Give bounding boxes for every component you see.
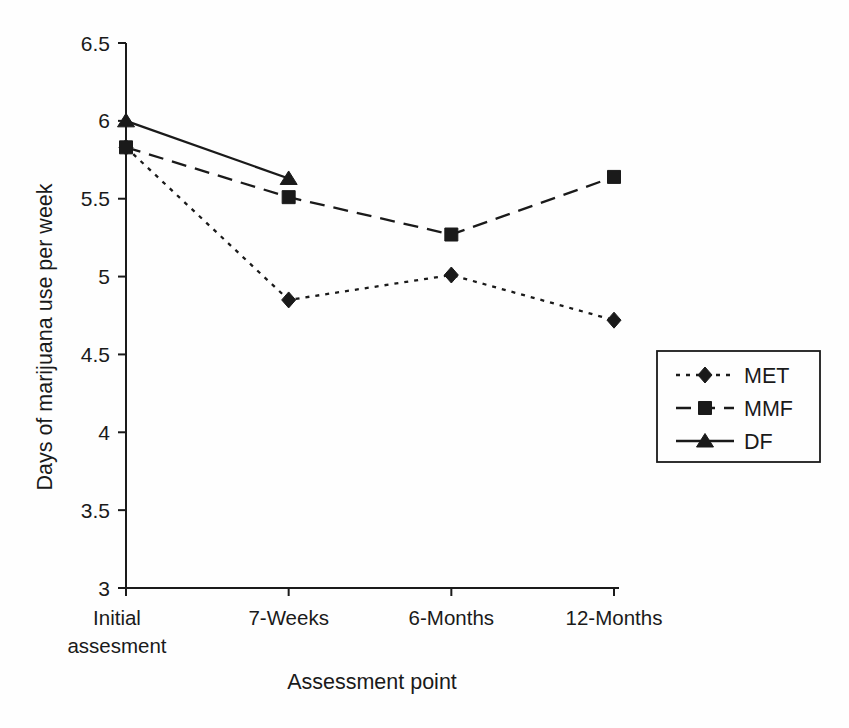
series-line-mmf (126, 147, 614, 234)
axes: 6.565.554.543.53Initialassesment7-Weeks6… (67, 32, 662, 658)
x-axis-tick-label: 6-Months (409, 606, 494, 629)
y-axis-tick-label: 3 (98, 577, 110, 600)
series-marker-diamond (282, 292, 296, 308)
series-marker-diamond (444, 267, 458, 283)
series-df (118, 113, 298, 184)
series-marker-square (445, 228, 458, 241)
y-axis-tick-label: 4 (98, 421, 110, 444)
series-line-met (126, 147, 614, 320)
chart-svg: 6.565.554.543.53Initialassesment7-Weeks6… (0, 0, 849, 728)
legend-marker-square (699, 402, 712, 415)
series-met (119, 139, 621, 328)
y-axis-title: Days of marijuana use per week (33, 183, 57, 490)
x-axis-tick-label: 12-Months (566, 606, 663, 629)
x-axis-tick-label: 7-Weeks (248, 606, 329, 629)
legend-label: MET (744, 364, 789, 388)
chart-render-root: 6.565.554.543.53Initialassesment7-Weeks6… (67, 32, 820, 658)
y-axis-tick-label: 6.5 (81, 32, 110, 55)
x-axis-title: Assessment point (287, 670, 457, 694)
series-marker-triangle (280, 171, 297, 185)
legend-label: MMF (744, 397, 793, 421)
series-mmf (120, 141, 621, 241)
y-axis-tick-label: 3.5 (81, 499, 110, 522)
series-marker-square (282, 191, 295, 204)
series-marker-square (608, 170, 621, 183)
legend-label: DF (744, 430, 773, 454)
y-axis-tick-label: 4.5 (81, 343, 110, 366)
figure-page: 6.565.554.543.53Initialassesment7-Weeks6… (0, 0, 849, 728)
x-axis-tick-label: assesment (67, 634, 166, 657)
y-axis-tick-label: 5 (98, 265, 110, 288)
y-axis-tick-label: 6 (98, 109, 110, 132)
y-axis-tick-label: 5.5 (81, 187, 110, 210)
series-marker-square (120, 141, 133, 154)
legend-box (657, 351, 820, 462)
legend: METMMFDF (657, 351, 820, 462)
series-marker-diamond (607, 312, 621, 328)
x-axis-tick-label: Initial (93, 606, 141, 629)
